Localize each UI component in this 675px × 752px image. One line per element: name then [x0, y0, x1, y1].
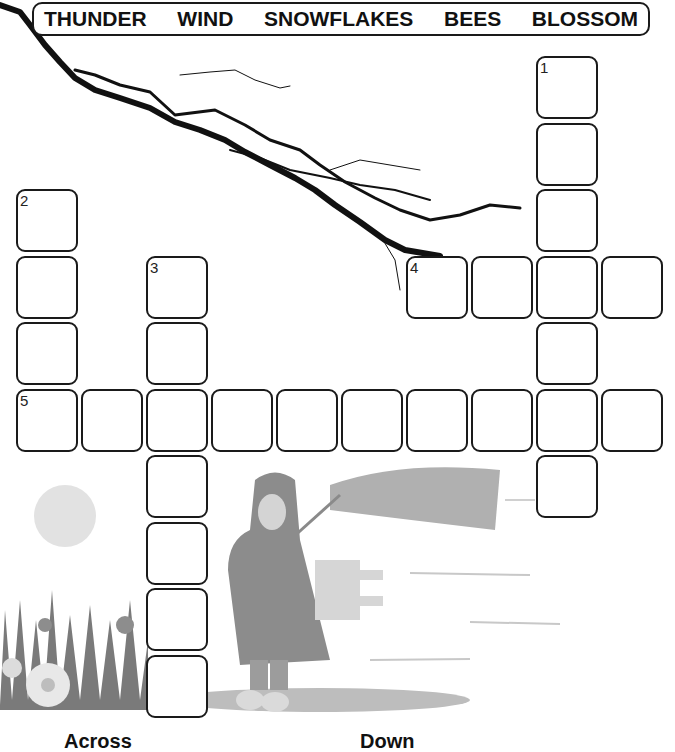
- crossword-cell[interactable]: 1: [536, 56, 598, 119]
- crossword-cell[interactable]: [146, 522, 208, 585]
- clue-number: 5: [20, 392, 28, 409]
- crossword-cell[interactable]: [146, 588, 208, 651]
- crossword-cell[interactable]: [276, 389, 338, 452]
- crossword-cell[interactable]: [146, 389, 208, 452]
- crossword-cell[interactable]: [146, 322, 208, 385]
- crossword-cell[interactable]: [146, 455, 208, 518]
- crossword-cell[interactable]: [211, 389, 273, 452]
- crossword-cell[interactable]: 5: [16, 389, 78, 452]
- crossword-cell[interactable]: [471, 256, 533, 319]
- crossword-cell[interactable]: [406, 389, 468, 452]
- crossword-cell[interactable]: [536, 389, 598, 452]
- crossword-cell[interactable]: [536, 123, 598, 186]
- sun-icon: [34, 485, 96, 547]
- crossword-cell[interactable]: [16, 322, 78, 385]
- girl-with-umbrella-icon: [170, 467, 560, 712]
- crossword-cell[interactable]: [16, 256, 78, 319]
- crossword-cell[interactable]: [536, 189, 598, 252]
- lightning-bolt-icon: [0, 5, 520, 290]
- flowers-icon: [0, 590, 148, 710]
- crossword-cell[interactable]: [536, 455, 598, 518]
- crossword-cell[interactable]: 3: [146, 256, 208, 319]
- clue-number: 3: [150, 259, 158, 276]
- word-bank: THUNDER WIND SNOWFLAKES BEES BLOSSOM: [32, 2, 650, 36]
- crossword-cell[interactable]: [341, 389, 403, 452]
- crossword-cell[interactable]: [471, 389, 533, 452]
- clue-number: 1: [540, 59, 548, 76]
- clue-number: 4: [410, 259, 418, 276]
- word-bank-item: WIND: [177, 7, 233, 31]
- word-bank-item: BEES: [444, 7, 501, 31]
- crossword-cell[interactable]: [146, 655, 208, 718]
- word-bank-item: SNOWFLAKES: [264, 7, 413, 31]
- word-bank-item: THUNDER: [44, 7, 147, 31]
- word-bank-item: BLOSSOM: [532, 7, 638, 31]
- crossword-cell[interactable]: [536, 256, 598, 319]
- crossword-cell[interactable]: [81, 389, 143, 452]
- crossword-cell[interactable]: [536, 322, 598, 385]
- crossword-cell[interactable]: [601, 389, 663, 452]
- crossword-cell[interactable]: 2: [16, 189, 78, 252]
- clue-number: 2: [20, 192, 28, 209]
- crossword-cell[interactable]: 4: [406, 256, 468, 319]
- crossword-cell[interactable]: [601, 256, 663, 319]
